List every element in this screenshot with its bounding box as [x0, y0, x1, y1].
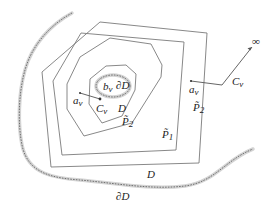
label-dD-inner: ∂D: [116, 79, 129, 91]
point-b-v: [99, 98, 102, 101]
label-D-inner: D: [117, 102, 126, 114]
label-a-v-inner: aν: [73, 94, 83, 108]
label-c-v-outer: Cν: [232, 75, 243, 89]
label-p1: P̃1: [161, 128, 173, 142]
label-b-v: bν: [103, 80, 113, 94]
label-c-v-inner: Cν: [96, 102, 107, 116]
arrow-to-infinity-icon: [248, 47, 253, 51]
label-dD-outer: ∂D: [116, 190, 129, 202]
outer-boundary-curve: [19, 13, 253, 187]
domain-diagram: ∞ aν Cν P̃2 P̃1 bν ∂D aν Cν D P̃2 D ∂D: [0, 0, 272, 215]
label-p2-inner: P̃2: [121, 115, 134, 129]
polygon-p3: [67, 38, 162, 136]
path-c-v-inner: [80, 93, 100, 99]
point-a-v-inner: [79, 92, 81, 94]
label-a-v-outer: aν: [189, 83, 199, 97]
label-D-outer: D: [146, 168, 155, 180]
point-a-v-outer: [190, 80, 192, 82]
label-infinity: ∞: [252, 35, 260, 47]
